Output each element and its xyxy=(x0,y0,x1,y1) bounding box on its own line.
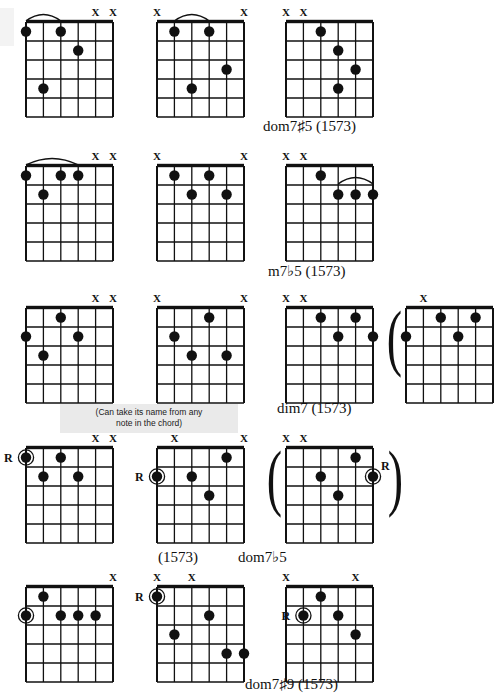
finger-dot xyxy=(333,83,343,93)
finger-dot xyxy=(436,312,446,322)
nut xyxy=(26,20,113,23)
chord-grid xyxy=(156,586,245,683)
nut xyxy=(157,306,244,309)
nut xyxy=(26,164,113,167)
chord-grid xyxy=(25,586,114,683)
finger-dot xyxy=(239,648,249,658)
finger-dot xyxy=(38,350,48,360)
finger-dot xyxy=(316,312,326,322)
chord-grid xyxy=(156,21,245,118)
muted-string-marker: X xyxy=(280,293,292,304)
muted-string-marker: X xyxy=(238,151,250,162)
chord-grid xyxy=(285,21,374,118)
finger-dot xyxy=(38,591,48,601)
nut xyxy=(406,306,493,309)
chord-diagram: XX xyxy=(286,22,373,117)
finger-dot xyxy=(38,189,48,199)
finger-dot xyxy=(21,26,31,36)
muted-string-marker: X xyxy=(107,433,119,444)
finger-dot xyxy=(204,170,214,180)
finger-dot xyxy=(73,170,83,180)
finger-dot xyxy=(169,331,179,341)
chord-diagram: XXR xyxy=(157,448,244,543)
finger-dot xyxy=(333,490,343,500)
chord-diagram: XX xyxy=(157,166,244,261)
muted-string-marker: X xyxy=(417,293,429,304)
muted-string-marker: X xyxy=(151,151,163,162)
muted-string-marker: X xyxy=(238,293,250,304)
finger-dot xyxy=(350,312,360,322)
finger-dot xyxy=(38,83,48,93)
muted-string-marker: X xyxy=(186,572,198,583)
muted-string-marker: X xyxy=(280,151,292,162)
finger-dot xyxy=(187,83,197,93)
muted-string-marker: X xyxy=(280,7,292,18)
root-dot xyxy=(298,610,308,620)
chord-diagram: XX xyxy=(157,22,244,117)
finger-dot xyxy=(56,26,66,36)
root-dot xyxy=(21,610,31,620)
muted-string-marker: X xyxy=(297,7,309,18)
muted-string-marker: X xyxy=(168,433,180,444)
chord-grid xyxy=(405,307,494,404)
finger-dot xyxy=(56,610,66,620)
finger-dot xyxy=(56,312,66,322)
chord-diagram: X( xyxy=(406,308,493,403)
variant-paren-left: ( xyxy=(267,440,282,514)
chord-grid xyxy=(156,165,245,262)
muted-string-marker: X xyxy=(107,572,119,583)
muted-string-marker: X xyxy=(90,433,102,444)
chord-diagram: XXR() xyxy=(286,448,373,543)
nut xyxy=(286,164,373,167)
nut xyxy=(26,306,113,309)
finger-dot xyxy=(221,350,231,360)
root-dot xyxy=(152,471,162,481)
chord-grid xyxy=(25,447,114,544)
chord-diagram: XXR xyxy=(26,448,113,543)
muted-string-marker: X xyxy=(90,7,102,18)
note-line-1: (Can take its name from any xyxy=(66,407,232,418)
chord-grid xyxy=(285,165,374,262)
finger-dot xyxy=(316,170,326,180)
finger-dot xyxy=(73,471,83,481)
nut xyxy=(157,164,244,167)
variant-paren-left: ( xyxy=(387,300,402,374)
finger-dot xyxy=(21,170,31,180)
root-dot xyxy=(21,452,31,462)
finger-dot xyxy=(90,610,100,620)
nut xyxy=(26,446,113,449)
finger-dot xyxy=(204,610,214,620)
finger-dot xyxy=(350,64,360,74)
chord-grid xyxy=(25,165,114,262)
finger-dot xyxy=(316,26,326,36)
finger-dot xyxy=(21,331,31,341)
muted-string-marker: X xyxy=(297,433,309,444)
root-label: R xyxy=(135,471,144,483)
finger-dot xyxy=(73,45,83,55)
finger-dot xyxy=(56,452,66,462)
finger-dot xyxy=(368,189,378,199)
muted-string-marker: X xyxy=(238,7,250,18)
chord-diagram: XX xyxy=(26,166,113,261)
finger-dot xyxy=(350,629,360,639)
chord-diagram: XX xyxy=(26,22,113,117)
nut xyxy=(286,306,373,309)
finger-dot xyxy=(401,331,411,341)
finger-dot xyxy=(350,189,360,199)
chord-grid xyxy=(285,586,374,683)
scan-artifact-box xyxy=(0,8,14,46)
finger-dot xyxy=(73,331,83,341)
finger-dot xyxy=(221,452,231,462)
muted-string-marker: X xyxy=(350,572,362,583)
chord-diagram: XXR xyxy=(157,587,244,682)
chord-naming-note: (Can take its name from anynote in the c… xyxy=(60,404,238,433)
finger-dot xyxy=(333,45,343,55)
nut xyxy=(157,20,244,23)
chord-grid xyxy=(285,447,374,544)
muted-string-marker: X xyxy=(90,293,102,304)
muted-string-marker: X xyxy=(107,7,119,18)
chord-grid xyxy=(25,307,114,404)
nut xyxy=(286,585,373,588)
finger-dot xyxy=(169,629,179,639)
muted-string-marker: X xyxy=(151,7,163,18)
